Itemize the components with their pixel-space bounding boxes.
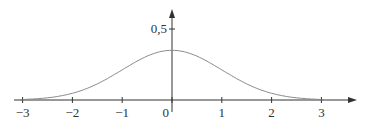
x-tick-label: −2 <box>65 105 79 120</box>
normal-distribution-chart: −3−2−10123 0,5 <box>0 0 366 124</box>
x-tick-label: −3 <box>16 105 30 120</box>
x-tick-label: 2 <box>268 105 275 120</box>
x-tick-label: 0 <box>163 105 170 120</box>
axes <box>14 9 357 112</box>
y-axis-arrow-icon <box>169 9 175 18</box>
y-tick-label: 0,5 <box>151 21 167 36</box>
x-tick-label: −1 <box>115 105 129 120</box>
x-tick-label: 3 <box>318 105 325 120</box>
y-ticks: 0,5 <box>151 21 175 36</box>
x-tick-label: 1 <box>219 105 226 120</box>
x-axis-arrow-icon <box>348 97 357 103</box>
